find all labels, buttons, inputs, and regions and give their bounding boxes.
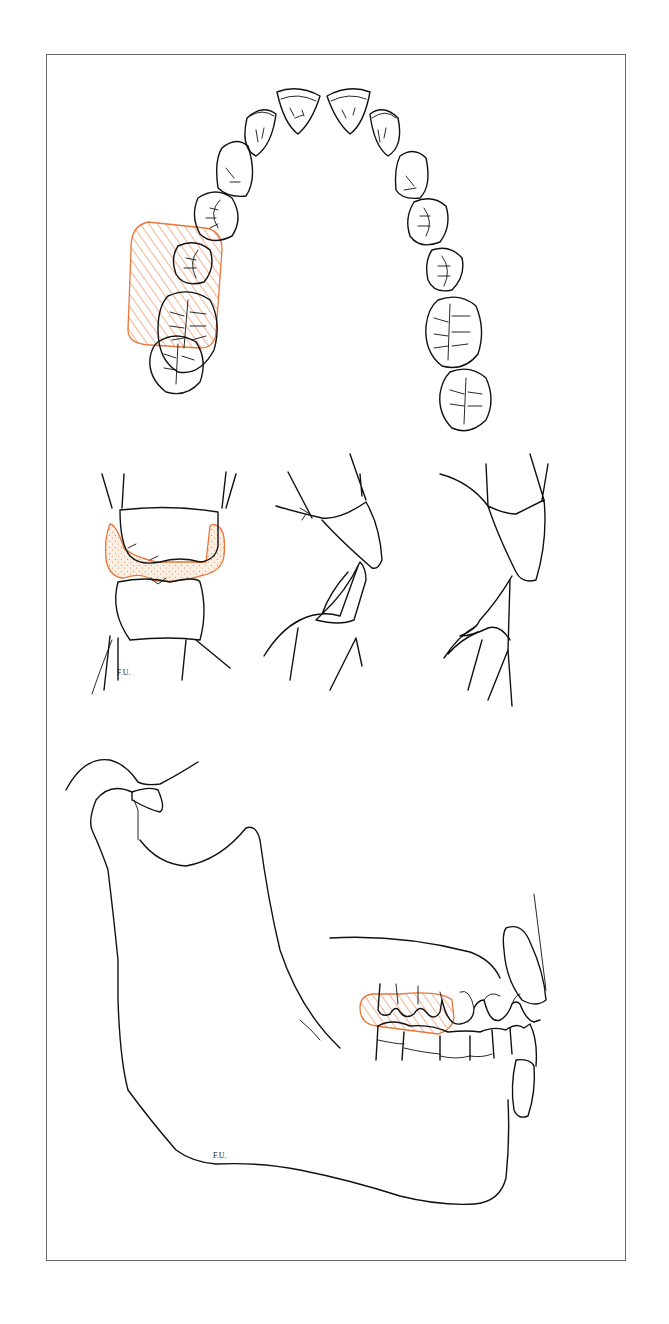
tooth-contact-sections-panel: F.U. (92, 454, 548, 706)
contact-section-3 (440, 454, 548, 706)
molar-highlight-region (128, 222, 222, 348)
mandible-profile-panel: F.U. (66, 760, 546, 1205)
artist-signature-mid: F.U. (117, 668, 131, 677)
artist-signature-bottom: F.U. (213, 1151, 227, 1160)
contact-highlight-region (106, 524, 225, 581)
illustration-canvas: F.U. (0, 0, 669, 1324)
contact-section-1: F.U. (92, 472, 236, 694)
occlusal-arch-panel (128, 89, 491, 431)
contact-section-2 (264, 454, 382, 690)
